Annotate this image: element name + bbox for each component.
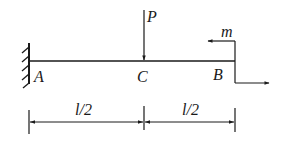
point-label-c: C [137,68,148,85]
dimension-label-cb: l/2 [182,101,199,118]
beam-diagram: P m A C B l/2 l/2 [0,0,282,159]
dimension-label-ac: l/2 [75,101,92,118]
point-label-b: B [213,66,223,83]
force-label: P [146,8,157,25]
moment-label: m [221,23,233,40]
point-label-a: A [33,68,44,85]
dimension-lines [29,106,235,134]
fixed-support-icon [22,43,29,88]
